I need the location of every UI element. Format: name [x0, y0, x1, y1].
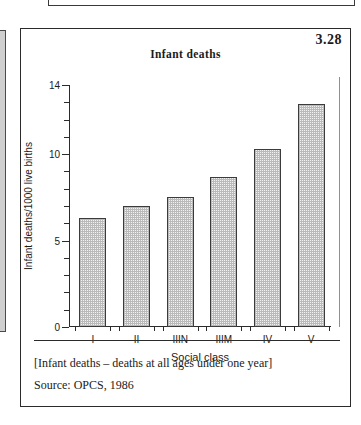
x-tick [75, 327, 76, 331]
notes-divider [34, 340, 340, 341]
bar-II [123, 206, 150, 327]
x-tick [206, 327, 207, 331]
page-artifact-left-box [0, 30, 6, 332]
y-tick-minor [64, 275, 69, 276]
x-tick [198, 327, 199, 331]
x-tick [329, 327, 330, 331]
y-tick-label: 5 [54, 235, 60, 246]
bar-IV [254, 149, 281, 327]
y-tick-minor [64, 189, 69, 190]
y-axis-title: Infant deaths/1000 live births [23, 142, 34, 270]
x-tick [241, 327, 242, 331]
page-artifact-top-box [48, 0, 355, 6]
bar-V [298, 104, 325, 327]
x-tick [285, 327, 286, 331]
y-axis-line [69, 85, 70, 327]
x-tick [154, 327, 155, 331]
note-definition: [Infant deaths – deaths at all ages unde… [34, 352, 340, 374]
y-tick-label: 14 [49, 80, 60, 91]
y-tick-minor [64, 223, 69, 224]
y-tick-minor [64, 310, 69, 311]
y-tick-major [62, 241, 69, 242]
y-tick-label: 0 [54, 322, 60, 333]
y-tick-minor [64, 171, 69, 172]
y-tick-minor [64, 292, 69, 293]
figure-number: 3.28 [316, 32, 343, 48]
y-tick-minor [64, 120, 69, 121]
bar-I [79, 218, 106, 327]
figure-notes: [Infant deaths – deaths at all ages unde… [34, 352, 340, 396]
plot-right-rule [339, 77, 340, 327]
y-tick-minor [64, 206, 69, 207]
y-tick-minor [64, 102, 69, 103]
x-tick [163, 327, 164, 331]
x-tick [119, 327, 120, 331]
plot-area: Infant deaths/1000 live births 051014 II… [69, 85, 331, 327]
y-tick-minor [64, 258, 69, 259]
x-tick [250, 327, 251, 331]
x-tick [110, 327, 111, 331]
bar-IIIM [210, 177, 237, 327]
x-tick [294, 327, 295, 331]
bar-IIIN [167, 197, 194, 327]
y-tick-major [62, 154, 69, 155]
y-tick-minor [64, 137, 69, 138]
y-tick-major [62, 85, 69, 86]
figure-frame: 3.28 Infant deaths Infant deaths/1000 li… [20, 28, 351, 407]
chart-title: Infant deaths [21, 48, 350, 60]
x-axis-line [69, 326, 331, 327]
y-tick-label: 10 [49, 149, 60, 160]
y-tick-major [62, 327, 69, 328]
note-source: Source: OPCS, 1986 [34, 374, 340, 396]
